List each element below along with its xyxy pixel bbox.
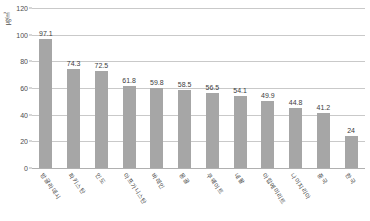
bar-slot: 24 xyxy=(337,8,365,168)
x-label-slot: 방글라데시 xyxy=(32,170,60,220)
bar-value-label: 24 xyxy=(347,127,355,134)
x-label-slot: 한국 xyxy=(337,170,365,220)
y-tick-label: 100 xyxy=(16,31,28,38)
plot-area: 020406080100120 97.174.372.561.859.858.5… xyxy=(32,8,365,168)
y-tick-label: 0 xyxy=(24,165,28,172)
bar-value-label: 44.8 xyxy=(289,99,303,106)
bar-slot: 74.3 xyxy=(60,8,88,168)
bar-slot: 56.5 xyxy=(199,8,227,168)
x-axis-tick-label: 바레인 xyxy=(150,171,168,191)
x-label-slot: 바레인 xyxy=(143,170,171,220)
y-tick-label: 60 xyxy=(20,85,28,92)
bar-series: 97.174.372.561.859.858.556.554.149.944.8… xyxy=(32,8,365,168)
bar[interactable] xyxy=(123,86,136,168)
bar[interactable] xyxy=(345,136,358,168)
bar-chart: ㎍/㎥ 020406080100120 97.174.372.561.859.8… xyxy=(0,0,370,221)
y-tick-label: 40 xyxy=(20,111,28,118)
x-axis-tick-label: 파키스탄 xyxy=(66,171,87,196)
y-tick-label: 80 xyxy=(20,58,28,65)
bar-value-label: 61.8 xyxy=(122,77,136,84)
x-axis-tick-label: 쿠웨이트 xyxy=(205,171,226,196)
y-tick-label: 20 xyxy=(20,138,28,145)
bar[interactable] xyxy=(150,88,163,168)
bar[interactable] xyxy=(178,90,191,168)
bar-value-label: 72.5 xyxy=(95,62,109,69)
bar[interactable] xyxy=(234,96,247,168)
x-label-slot: 쿠웨이트 xyxy=(199,170,227,220)
bar[interactable] xyxy=(206,93,219,168)
x-label-slot: 중국 xyxy=(310,170,338,220)
x-axis-tick-label: 몽골 xyxy=(177,171,191,186)
x-label-slot: 아프가니스탄 xyxy=(115,170,143,220)
x-axis-tick-label: 중국 xyxy=(316,171,330,186)
x-axis-tick-label: 한국 xyxy=(344,171,358,186)
x-label-slot: 네팔 xyxy=(226,170,254,220)
bar-value-label: 49.9 xyxy=(261,92,275,99)
bar-slot: 61.8 xyxy=(115,8,143,168)
bar-slot: 44.8 xyxy=(282,8,310,168)
bar[interactable] xyxy=(289,108,302,168)
x-axis-labels: 방글라데시파키스탄인도아프가니스탄바레인몽골쿠웨이트네팔아랍에미리트나이지리아중… xyxy=(32,170,365,220)
y-tick-label: 120 xyxy=(16,5,28,12)
bar-slot: 54.1 xyxy=(226,8,254,168)
bar-value-label: 58.5 xyxy=(178,81,192,88)
gridline xyxy=(32,168,365,169)
x-label-slot: 파키스탄 xyxy=(60,170,88,220)
x-axis-tick-label: 인도 xyxy=(94,171,108,186)
bar-slot: 72.5 xyxy=(88,8,116,168)
bar-slot: 97.1 xyxy=(32,8,60,168)
bar[interactable] xyxy=(95,71,108,168)
bar-value-label: 41.2 xyxy=(317,104,331,111)
x-label-slot: 인도 xyxy=(88,170,116,220)
bar-slot: 41.2 xyxy=(310,8,338,168)
bar[interactable] xyxy=(261,101,274,168)
x-label-slot: 몽골 xyxy=(171,170,199,220)
bar-value-label: 56.5 xyxy=(206,84,220,91)
bar-value-label: 74.3 xyxy=(67,60,81,67)
bar[interactable] xyxy=(67,69,80,168)
bar-value-label: 59.8 xyxy=(150,79,164,86)
bar-slot: 49.9 xyxy=(254,8,282,168)
bar-value-label: 54.1 xyxy=(233,87,247,94)
bar[interactable] xyxy=(39,39,52,168)
bar-slot: 59.8 xyxy=(143,8,171,168)
bar[interactable] xyxy=(317,113,330,168)
bar-slot: 58.5 xyxy=(171,8,199,168)
y-axis-unit-label: ㎍/㎥ xyxy=(2,4,11,34)
x-axis-tick-label: 네팔 xyxy=(233,171,247,186)
x-label-slot: 아랍에미리트 xyxy=(254,170,282,220)
bar-value-label: 97.1 xyxy=(39,30,53,37)
x-label-slot: 나이지리아 xyxy=(282,170,310,220)
